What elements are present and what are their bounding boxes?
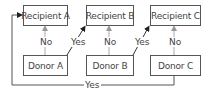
recipient-c-box: Recipient C [150,5,201,26]
edge-label-loop-yes: Yes [84,80,101,90]
edge-label-b-no: No [103,37,117,47]
donor-c-label: Donor C [158,61,193,71]
donor-b-box: Donor B [86,55,134,76]
recipient-b-label: Recipient B [86,11,135,21]
edge-label-c-no: No [168,37,182,47]
recipient-a-label: Recipient A [21,11,70,21]
recipient-b-box: Recipient B [86,5,134,26]
donor-c-box: Donor C [150,55,201,76]
donor-b-label: Donor B [93,61,128,71]
recipient-c-label: Recipient C [151,11,200,21]
donor-a-box: Donor A [23,55,68,76]
recipient-a-box: Recipient A [23,5,68,26]
edge-label-b-yes: Yes [134,37,151,47]
donor-a-label: Donor A [28,61,63,71]
edge-label-a-no: No [39,37,53,47]
edge-label-a-yes: Yes [70,37,87,47]
